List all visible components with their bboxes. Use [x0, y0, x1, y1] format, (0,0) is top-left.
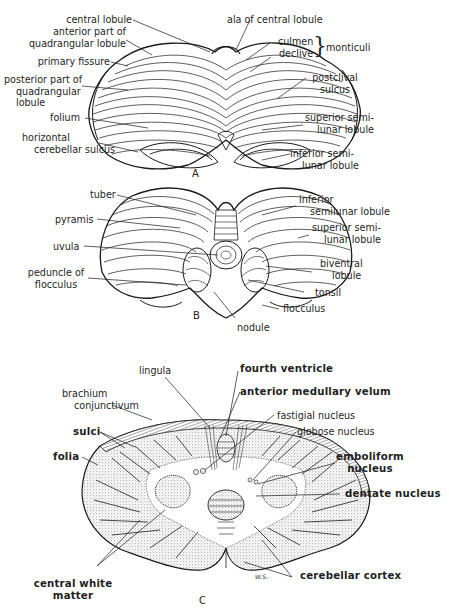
label-line: flocculus: [20, 279, 92, 291]
label-line: peduncle of: [20, 267, 92, 279]
label-inferior-semilunar-a: inferior semi- lunar lobule: [290, 148, 359, 171]
label-fastigial-nucleus: fastigial nucleus: [277, 410, 355, 422]
label-peduncle-flocculus: peduncle of flocculus: [20, 267, 92, 290]
label-line: horizontal: [22, 132, 115, 144]
label-fourth-ventricle: fourth ventricle: [240, 363, 333, 375]
label-line: nucleus: [335, 463, 405, 475]
panel-label-c: C: [199, 595, 206, 606]
label-brachium-conjunctivum: brachium conjunctivum: [62, 388, 139, 411]
label-line: biventral: [320, 258, 363, 270]
label-ala-central-lobule: ala of central lobule: [227, 14, 323, 26]
label-line: quadrangular: [4, 86, 82, 98]
label-folia: folia: [53, 451, 79, 463]
label-postclival-sulcus: postclival sulcus: [300, 72, 370, 95]
label-line: inferior semi-: [290, 148, 359, 160]
label-line: sulcus: [300, 84, 370, 96]
label-lingula: lingula: [139, 365, 171, 377]
label-dentate-nucleus: dentate nucleus: [345, 488, 441, 500]
label-line: inferior: [299, 194, 390, 206]
label-central-white-matter: central white matter: [30, 578, 116, 602]
label-globose-nucleus: globose nucleus: [297, 426, 375, 438]
label-line: lunar lobule: [305, 124, 374, 136]
label-biventral-lobule: biventral lobule: [320, 258, 363, 281]
label-pyramis: pyramis: [55, 214, 94, 226]
label-superior-semilunar-a: superior semi- lunar lobule: [305, 112, 374, 135]
label-anterior-medullary-velum: anterior medullary velum: [240, 386, 391, 398]
label-inferior-semilunar-b: inferior semilunar lobule: [299, 194, 390, 217]
label-tuber: tuber: [90, 189, 116, 201]
label-monticuli: monticuli: [326, 42, 370, 54]
label-culmen: culmen: [278, 36, 313, 48]
brace-icon: }: [313, 35, 327, 57]
label-line: lunar lobule: [290, 160, 359, 172]
label-nodule: nodule: [237, 322, 270, 334]
label-line: matter: [30, 590, 116, 602]
artist-signature: W.S.: [255, 573, 268, 580]
label-folium: folium: [50, 112, 80, 124]
label-posterior-quadrangular: posterior part of quadrangular lobule: [4, 74, 82, 109]
label-emboliform-nucleus: emboliform nucleus: [335, 451, 405, 475]
label-line: lobule: [320, 270, 363, 282]
label-primary-fissure: primary fissure: [20, 56, 110, 68]
label-line: anterior part of: [14, 26, 126, 38]
label-line: lunar lobule: [312, 234, 381, 246]
panel-label-a: A: [192, 168, 199, 179]
label-line: emboliform: [335, 451, 405, 463]
label-line: quadrangular lobule: [14, 38, 126, 50]
label-line: posterior part of: [4, 74, 82, 86]
panel-c-drawing: [82, 420, 370, 570]
label-line: superior semi-: [312, 222, 381, 234]
label-line: central white: [30, 578, 116, 590]
label-superior-semilunar-b: superior semi- lunar lobule: [312, 222, 381, 245]
label-anterior-quadrangular: anterior part of quadrangular lobule: [14, 26, 126, 49]
label-line: semilunar lobule: [299, 206, 390, 218]
label-sulci: sulci: [73, 426, 100, 438]
label-declive: declive: [279, 48, 313, 60]
label-cerebellar-cortex: cerebellar cortex: [300, 570, 401, 582]
panel-label-b: B: [193, 310, 200, 321]
label-uvula: uvula: [53, 241, 79, 253]
label-horizontal-sulcus: horizontal cerebellar sulcus: [22, 132, 115, 155]
label-line: superior semi-: [305, 112, 374, 124]
label-line: cerebellar sulcus: [22, 144, 115, 156]
label-line: postclival: [300, 72, 370, 84]
label-line: conjunctivum: [62, 400, 139, 412]
label-line: lobule: [4, 97, 82, 109]
label-central-lobule: central lobule: [36, 14, 132, 26]
label-tonsil: tonsil: [315, 287, 341, 299]
label-flocculus: flocculus: [283, 303, 325, 315]
label-line: brachium: [62, 388, 139, 400]
